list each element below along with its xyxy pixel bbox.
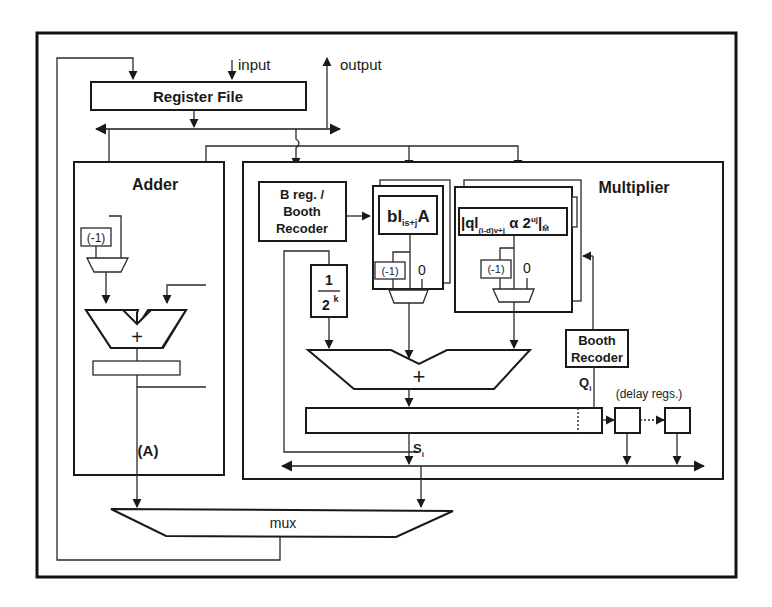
bus-to-breg-wire: [296, 129, 299, 166]
diagram-canvas: input output Register File Adder (-1) +: [0, 0, 772, 607]
q-booth-label-1: Booth: [578, 333, 616, 348]
b-reg-label-1: B reg. /: [280, 187, 324, 202]
b-reg-label-3: Recoder: [276, 221, 328, 236]
b-reg-booth-recoder: B reg. / Booth Recoder: [259, 182, 346, 241]
adder-title: Adder: [132, 176, 178, 193]
adder-small-mux: [87, 258, 128, 272]
register-file: Register File: [91, 82, 306, 110]
b-reg-label-2: Booth: [283, 204, 321, 219]
delay-regs-label: (delay regs.): [616, 387, 683, 401]
q-booth-label-2: Recoder: [571, 350, 623, 365]
scale-denominator: 2: [322, 297, 330, 313]
multiplier-plus-symbol: +: [413, 364, 426, 389]
q-booth-recoder: Booth Recoder: [566, 330, 628, 367]
adder-result-register: [93, 361, 180, 375]
input-label: input: [238, 56, 271, 73]
register-file-label: Register File: [153, 88, 243, 105]
scale-numerator: 1: [325, 272, 333, 288]
partial-a-unit: blis+jA (-1) 0: [373, 180, 450, 303]
accumulator-register: [306, 408, 602, 433]
partial-a-mux: [389, 290, 428, 303]
architecture-diagram: input output Register File Adder (-1) +: [0, 0, 772, 607]
adder-plus-symbol: +: [131, 326, 143, 348]
mux-label: mux: [270, 515, 296, 531]
partial-q-negate-label: (-1): [487, 263, 504, 275]
delay-register-2: [665, 408, 690, 433]
scale-block: 1 2 k: [311, 265, 347, 317]
partial-q-mux: [493, 289, 534, 302]
partial-a-negate-label: (-1): [381, 265, 398, 277]
adder-negate-label: (-1): [87, 231, 106, 245]
multiplier-title: Multiplier: [598, 179, 669, 196]
adder-block: Adder (-1) + (A): [74, 162, 224, 475]
multiplier-block: Multiplier B reg. / Booth Recoder 1 2 k …: [243, 162, 723, 479]
output-label: output: [340, 56, 383, 73]
adder-output-label: (A): [138, 442, 159, 459]
partial-q-unit: |ql(i-d)v+j α 2uj|M̂ (-1) 0: [455, 180, 581, 312]
partial-a-zero-label: 0: [418, 262, 426, 278]
delay-register-1: [615, 408, 640, 433]
partial-q-zero-label: 0: [523, 260, 531, 276]
output-mux: mux: [111, 509, 453, 537]
